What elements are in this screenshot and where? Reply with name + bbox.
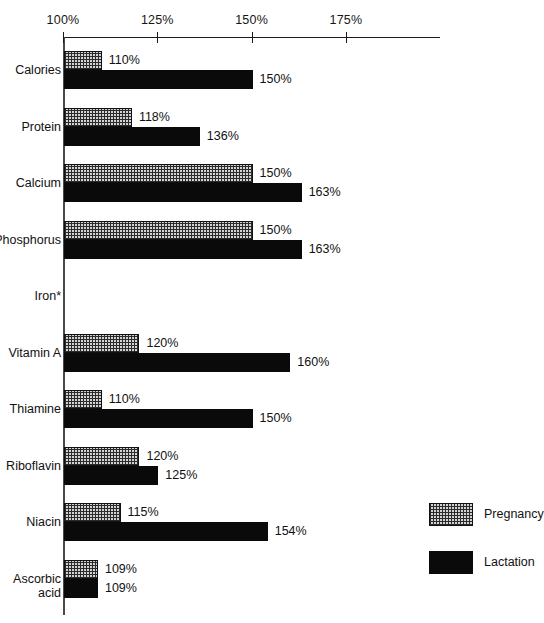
- bar-value-lactation: 160%: [297, 353, 329, 372]
- bar-lactation: [64, 522, 268, 541]
- bar-pregnancy: [64, 447, 139, 466]
- bar-value-lactation: 150%: [260, 409, 292, 428]
- bar-lactation: [64, 353, 290, 372]
- bar-value-lactation: 109%: [105, 579, 137, 598]
- x-axis-tick: [252, 32, 253, 43]
- legend-swatch-lactation: [429, 551, 473, 574]
- category-label: Calcium: [0, 176, 61, 190]
- bar-value-lactation: 150%: [260, 70, 292, 89]
- legend-label: Lactation: [484, 555, 535, 569]
- legend-label: Pregnancy: [484, 507, 544, 521]
- category-label: Iron*: [0, 289, 61, 303]
- bar-value-lactation: 163%: [309, 183, 341, 202]
- bar-pregnancy: [64, 390, 102, 409]
- bar-value-pregnancy: 109%: [105, 560, 137, 579]
- bar-value-pregnancy: 150%: [260, 221, 292, 240]
- chart-row: Vitamin A120%160%: [0, 334, 510, 372]
- category-label: Thiamine: [0, 402, 61, 416]
- legend-swatch-pregnancy: [429, 503, 473, 526]
- x-axis-tick: [63, 32, 64, 43]
- category-label: Calories: [0, 63, 61, 77]
- chart-row: Calories110%150%: [0, 51, 510, 89]
- category-label: Protein: [0, 120, 61, 134]
- bar-value-pregnancy: 120%: [146, 447, 178, 466]
- category-label: Ascorbic acid: [0, 572, 61, 600]
- bar-pregnancy: [64, 51, 102, 70]
- bar-value-pregnancy: 115%: [128, 503, 159, 522]
- bar-lactation: [64, 70, 253, 89]
- chart-row: Protein118%136%: [0, 108, 510, 146]
- x-axis-tick-label: 125%: [141, 13, 174, 27]
- bar-value-lactation: 163%: [309, 240, 341, 259]
- x-axis-tick-label: 150%: [235, 13, 268, 27]
- category-label: Riboflavin: [0, 459, 61, 473]
- x-axis-tick-label: 175%: [330, 13, 363, 27]
- chart-row: Thiamine110%150%: [0, 390, 510, 428]
- bar-pregnancy: [64, 164, 253, 183]
- bar-value-pregnancy: 110%: [109, 390, 140, 409]
- bar-value-pregnancy: 120%: [146, 334, 178, 353]
- bar-lactation: [64, 579, 98, 598]
- chart-row: Iron*: [0, 277, 510, 315]
- bar-lactation: [64, 466, 158, 485]
- category-label: Phosphorus: [0, 233, 61, 247]
- bar-lactation: [64, 409, 253, 428]
- bar-lactation: [64, 240, 302, 259]
- bar-lactation: [64, 127, 200, 146]
- chart-row: Riboflavin120%125%: [0, 447, 510, 485]
- x-axis-tick: [346, 32, 347, 43]
- x-axis-tick-label: 100%: [47, 13, 80, 27]
- bar-pregnancy: [64, 108, 132, 127]
- page-top-artifact: [150, 0, 370, 9]
- bar-pregnancy: [64, 503, 121, 522]
- bar-pregnancy: [64, 560, 98, 579]
- bar-value-lactation: 136%: [207, 127, 239, 146]
- bar-value-pregnancy: 110%: [109, 51, 140, 70]
- bar-value-lactation: 154%: [275, 522, 307, 541]
- category-label: Niacin: [0, 515, 61, 529]
- bar-lactation: [64, 183, 302, 202]
- chart-row: Calcium150%163%: [0, 164, 510, 202]
- chart-row: Phosphorus150%163%: [0, 221, 510, 259]
- bar-value-lactation: 125%: [165, 466, 197, 485]
- bar-value-pregnancy: 150%: [260, 164, 292, 183]
- category-label: Vitamin A: [0, 346, 61, 360]
- x-axis-tick: [157, 32, 158, 43]
- bar-pregnancy: [64, 334, 139, 353]
- bar-pregnancy: [64, 221, 253, 240]
- bar-value-pregnancy: 118%: [139, 108, 170, 127]
